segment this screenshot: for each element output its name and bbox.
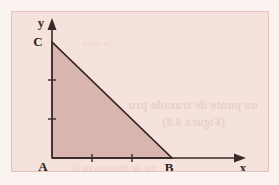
figure-drawing-layer: ABC x y xyxy=(0,0,279,185)
vertex-label-B: B xyxy=(165,160,174,175)
y-axis-label: y xyxy=(38,15,45,30)
geometry-figure-root: la recta un punto de trazado pru (Figura… xyxy=(0,0,279,185)
y-axis-arrowhead xyxy=(48,18,57,30)
vertex-label-A: A xyxy=(38,159,48,174)
x-axis-label: x xyxy=(240,160,247,175)
vertex-label-C: C xyxy=(33,34,42,49)
